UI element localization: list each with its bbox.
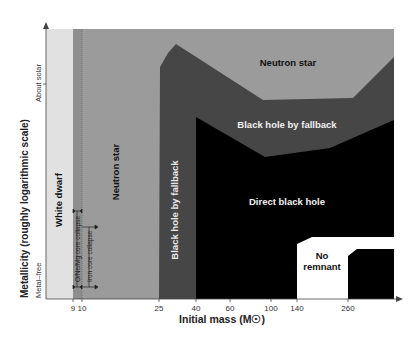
- x-tick-label: 100: [264, 304, 278, 313]
- label-bh-fallback: Black hole by fallback: [237, 119, 337, 130]
- y-axis-arrow-icon: [43, 22, 49, 29]
- label-bh-fallback-vertical: Black hole by fallback: [169, 160, 180, 260]
- x-tick-label: 9: [71, 304, 76, 313]
- x-tick-label: 260: [341, 304, 355, 313]
- label-neutron-star-left: Neutron star: [110, 143, 121, 200]
- y-tick-label-metal-free: Metal–free: [34, 263, 43, 298]
- x-axis-arrow-icon: [396, 296, 403, 302]
- remnant-diagram: About solar Metal–free Metallicity (roug…: [0, 0, 420, 345]
- label-onemg-collapse: O/Ne/Mg core collapse: [74, 216, 82, 282]
- label-neutron-star-top: Neutron star: [260, 57, 317, 68]
- label-no-remnant-1: No: [316, 250, 329, 261]
- x-tick-label: 60: [226, 304, 235, 313]
- x-tick-label: 25: [155, 304, 164, 313]
- x-tick-label: 40: [192, 304, 201, 313]
- x-tick-label: 140: [290, 304, 304, 313]
- x-tick-label: 10: [78, 304, 87, 313]
- label-white-dwarf: White dwarf: [53, 172, 64, 227]
- y-tick-label-solar: About solar: [34, 64, 43, 102]
- label-no-remnant-2: remnant: [303, 261, 341, 272]
- white-dwarf-region: [46, 29, 73, 299]
- x-axis-label: Initial mass (M☉): [179, 313, 265, 325]
- y-axis-label: Metallicity (roughly logarithmic scale): [19, 119, 30, 298]
- x-ticks: 910254060100140260: [71, 299, 355, 313]
- label-direct-bh: Direct black hole: [249, 196, 325, 207]
- label-iron-collapse: Iron core collapse: [86, 230, 94, 282]
